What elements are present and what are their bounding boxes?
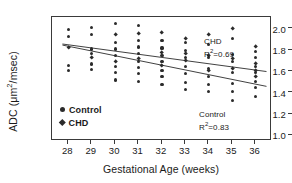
annotation-chd-r-number: =0.69 <box>213 49 234 58</box>
data-point-control <box>90 62 93 65</box>
data-point-control <box>254 86 257 89</box>
x-axis-tick: 36 <box>240 140 270 157</box>
data-point-control <box>114 41 117 44</box>
legend-item-control[interactable]: Control <box>60 100 102 113</box>
data-point-chd <box>89 55 94 60</box>
x-axis-tick-mark <box>90 140 91 144</box>
annotation-chd-r2: CHD R2=0.69 <box>204 37 234 59</box>
data-point-control <box>184 81 187 84</box>
y-axis-tick-label: 2.0 <box>272 24 286 35</box>
data-point-control <box>90 68 93 71</box>
x-axis-tick-mark <box>254 140 255 144</box>
data-point-control <box>160 39 163 42</box>
data-point-control <box>137 72 140 75</box>
x-axis-tick-mark <box>184 140 185 144</box>
data-point-chd <box>253 74 258 79</box>
data-point-chd <box>113 33 118 38</box>
data-point-control <box>137 66 140 69</box>
annotation-control-r2-value: R2=0.83 <box>199 120 229 132</box>
x-axis-tick-mark <box>207 140 208 144</box>
y-axis-tick-mark <box>288 91 292 92</box>
data-point-chd <box>183 58 188 63</box>
x-axis-tick-mark <box>231 140 232 144</box>
data-point-chd <box>183 51 188 56</box>
legend-item-label: CHD <box>69 118 89 128</box>
data-point-chd <box>160 64 165 69</box>
data-point-chd <box>113 60 118 65</box>
y-axis-tick-label: 1.2 <box>272 109 286 120</box>
y-axis-title-tail: /msec) <box>7 51 19 83</box>
annotation-chd-r2-value: R2=0.69 <box>204 47 234 59</box>
y-axis-title-exponent: 2 <box>5 83 14 87</box>
data-point-control <box>254 95 257 98</box>
y-axis-tick-label: 1.0 <box>272 130 286 141</box>
data-point-control <box>114 65 117 68</box>
data-point-chd <box>183 36 188 41</box>
data-point-chd <box>253 68 258 73</box>
data-point-control <box>207 90 210 93</box>
x-axis-tick-mark <box>137 140 138 144</box>
data-point-control <box>90 33 93 36</box>
annotation-control-r-number: =0.83 <box>208 122 229 131</box>
y-axis-tick-label: 1.8 <box>272 45 286 56</box>
data-point-control <box>254 80 257 83</box>
diamond-marker-icon <box>59 119 65 125</box>
data-point-chd <box>253 45 258 50</box>
data-point-control <box>207 75 210 78</box>
data-point-chd <box>160 50 165 55</box>
data-point-chd <box>206 68 211 73</box>
x-axis-tick-mark <box>114 140 115 144</box>
y-axis-tick-mark <box>288 27 292 28</box>
annotation-control-label: Control <box>199 110 229 120</box>
y-axis-tick-mark <box>288 49 292 50</box>
y-axis-title: ADC (μm2/msec) <box>2 0 18 183</box>
data-point-control <box>114 54 117 57</box>
plot-area: CHD R2=0.69 Control R2=0.83 ControlCHD <box>51 16 271 140</box>
data-point-control <box>90 47 93 50</box>
data-point-control <box>231 82 234 85</box>
data-point-chd <box>230 66 235 71</box>
legend: ControlCHD <box>60 100 102 126</box>
data-point-control <box>160 46 163 49</box>
data-point-control <box>137 39 140 42</box>
y-axis-title-text: ADC (μm <box>7 88 19 132</box>
y-axis-tick-label: 1.4 <box>272 88 286 99</box>
data-point-chd <box>160 31 165 36</box>
data-point-control <box>137 52 140 55</box>
data-point-control <box>160 75 163 78</box>
data-point-chd <box>230 26 235 31</box>
data-point-control <box>114 22 117 25</box>
data-point-control <box>254 56 257 59</box>
data-point-control <box>231 99 234 102</box>
data-point-control <box>114 71 117 74</box>
data-point-control <box>231 90 234 93</box>
x-axis-tick-label: 36 <box>240 145 270 157</box>
data-point-control <box>114 78 117 81</box>
data-point-control <box>67 64 70 67</box>
data-point-chd <box>66 46 71 51</box>
data-point-control <box>184 72 187 75</box>
data-point-control <box>67 69 70 72</box>
y-axis-tick-mark <box>288 70 292 71</box>
data-point-control <box>207 83 210 86</box>
data-point-control <box>67 35 70 38</box>
data-point-control <box>137 24 140 27</box>
data-point-control <box>184 41 187 44</box>
data-point-control <box>184 88 187 91</box>
x-axis-tick-mark <box>67 140 68 144</box>
x-axis-title: Gestational Age (weeks) <box>51 163 271 175</box>
plot-canvas: CHD R2=0.69 Control R2=0.83 ControlCHD <box>52 17 270 139</box>
annotation-control-r2: Control R2=0.83 <box>199 110 229 132</box>
circle-marker-icon <box>60 107 65 112</box>
y-axis-tick-mark <box>288 134 292 135</box>
data-point-control <box>160 83 163 86</box>
y-axis-tick-label: 1.6 <box>272 66 286 77</box>
data-point-control <box>254 50 257 53</box>
scatter-plot-figure: ADC (μm2/msec) 1.01.21.41.61.82.0 CHD R2… <box>0 0 292 183</box>
trendline-control <box>62 45 266 86</box>
data-point-control <box>137 80 140 83</box>
y-axis-tick-mark <box>288 113 292 114</box>
data-point-chd <box>136 32 141 37</box>
data-point-control <box>114 47 117 50</box>
x-axis-tick-mark <box>161 140 162 144</box>
